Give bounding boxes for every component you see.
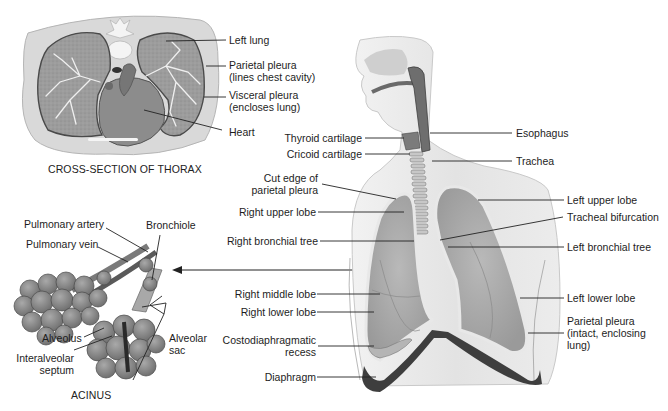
label-parietal-pleura-intact-desc: (intact, enclosing xyxy=(567,327,646,339)
torso-illustration xyxy=(317,36,564,392)
label-right-bronchial-tree: Right bronchial tree xyxy=(200,235,318,247)
label-parietal-pleura: Parietal pleura xyxy=(229,59,297,71)
label-alveolar-sac: sac xyxy=(169,344,185,356)
label-interalveolar-septum: septum xyxy=(16,364,74,376)
label-interalveolar: Interalveolar xyxy=(16,352,74,364)
label-right-lower-lobe: Right lower lobe xyxy=(200,306,316,318)
caption-acinus: ACINUS xyxy=(71,389,111,401)
thorax-cross-section xyxy=(22,16,226,155)
label-right-middle-lobe: Right middle lobe xyxy=(200,288,316,300)
label-costodiaphragmatic-recess: recess xyxy=(200,346,316,358)
label-left-lung: Left lung xyxy=(229,34,269,46)
label-pulmonary-vein: Pulmonary vein xyxy=(26,238,98,250)
label-left-lower-lobe: Left lower lobe xyxy=(567,292,635,304)
respiratory-diagram: Left lung Parietal pleura (lines chest c… xyxy=(0,0,668,411)
label-parietal-pleura-intact: Parietal pleura xyxy=(567,315,635,327)
label-visceral-pleura: Visceral pleura xyxy=(229,89,298,101)
label-tracheal-bifurcation: Tracheal bifurcation xyxy=(567,211,659,223)
label-thyroid-cartilage: Thyroid cartilage xyxy=(220,132,362,144)
caption-thorax: CROSS-SECTION OF THORAX xyxy=(48,163,202,175)
label-parietal-pleura-desc: (lines chest cavity) xyxy=(229,71,315,83)
label-pulmonary-artery: Pulmonary artery xyxy=(24,218,104,230)
label-parietal-pleura-intact-lung: lung) xyxy=(567,339,590,351)
label-diaphragm: Diaphragm xyxy=(200,371,316,383)
label-trachea: Trachea xyxy=(516,155,554,167)
label-left-upper-lobe: Left upper lobe xyxy=(567,194,637,206)
label-esophagus: Esophagus xyxy=(516,127,569,139)
label-cut-edge: Cut edge of xyxy=(220,172,318,184)
label-costodiaphragmatic: Costodiaphragmatic xyxy=(200,334,316,346)
label-visceral-pleura-desc: (encloses lung) xyxy=(229,101,300,113)
label-cut-edge-parietal: parietal pleura xyxy=(220,184,318,196)
label-alveolus: Alveolus xyxy=(42,332,82,344)
label-left-bronchial-tree: Left bronchial tree xyxy=(567,241,651,253)
label-right-upper-lobe: Right upper lobe xyxy=(200,206,316,218)
label-cricoid-cartilage: Cricoid cartilage xyxy=(220,148,362,160)
label-bronchiole: Bronchiole xyxy=(146,219,196,231)
